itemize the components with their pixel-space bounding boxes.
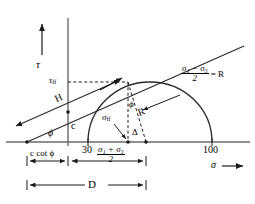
cohesion-label: c <box>71 121 75 131</box>
tick-label-sigma1: 100 <box>203 145 218 155</box>
tau-ff-sub: ff <box>52 79 56 85</box>
sigma-ff-leader <box>114 124 126 139</box>
radius-fraction: σ₁ − σ₃ 2 <box>181 64 209 84</box>
dim-label-c-cot-phi: c cot ϕ <box>30 149 54 158</box>
radius-numerator: σ₁ − σ₃ <box>181 64 209 73</box>
mohr-circle <box>88 82 212 142</box>
radius-equation-leader <box>143 95 180 110</box>
radius-equation: σ₁ − σ₃ 2 = R <box>181 64 224 84</box>
radius-denominator: 2 <box>181 73 209 83</box>
mohr-circle-figure: τ σ τff σff c ϕ ϕ R Δ H 30 100 σ₁ − σ₃ 2… <box>0 0 255 204</box>
point-c-intercept <box>66 110 70 114</box>
phi-circle-label: ϕ <box>129 100 134 109</box>
tick-label-sigma3: 30 <box>82 145 92 155</box>
sigma-axis-label: σ <box>211 160 216 170</box>
tau-ff-label: τff <box>49 76 56 85</box>
center-equation: σ₁ + σ₃ 2 <box>97 145 125 165</box>
center-denominator: 2 <box>97 154 125 164</box>
dim-label-d: D <box>88 179 96 190</box>
envelope-direction-arrow <box>100 78 122 90</box>
tau-axis-label: τ <box>36 59 40 70</box>
delta-label: Δ <box>132 128 138 137</box>
sigma-ff-label: σff <box>102 113 110 122</box>
point-center <box>144 140 148 144</box>
mohr-diagram-canvas <box>0 0 255 204</box>
sigma-ff-sub: ff <box>106 116 110 122</box>
point-sigma-ff <box>126 140 130 144</box>
point-origin-envelope <box>25 140 29 144</box>
phi-axis-label: ϕ <box>48 128 53 138</box>
radius-equals: = R <box>211 69 224 79</box>
center-numerator: σ₁ + σ₃ <box>97 145 125 154</box>
